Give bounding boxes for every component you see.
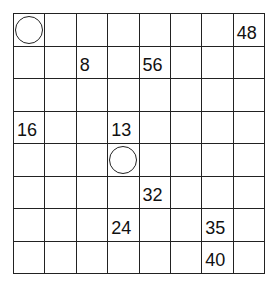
grid-cell-r7-c5[interactable] xyxy=(140,209,171,242)
grid-cell-r2-c8[interactable] xyxy=(234,47,265,80)
grid-cell-r2-c3[interactable]: 8 xyxy=(77,47,108,80)
grid-cell-r6-c5[interactable]: 32 xyxy=(140,177,171,210)
grid-cell-r5-c5[interactable] xyxy=(140,144,171,177)
puzzle-grid: 48856161332243540 xyxy=(13,13,265,274)
grid-cell-r3-c1[interactable] xyxy=(14,79,45,112)
grid-cell-r5-c3[interactable] xyxy=(77,144,108,177)
grid-cell-r7-c8[interactable] xyxy=(234,209,265,242)
grid-cell-r7-c1[interactable] xyxy=(14,209,45,242)
grid-cell-r3-c2[interactable] xyxy=(45,79,76,112)
grid-cell-r6-c2[interactable] xyxy=(45,177,76,210)
clue-number: 56 xyxy=(143,56,163,74)
grid-cell-r3-c3[interactable] xyxy=(77,79,108,112)
grid-cell-r6-c7[interactable] xyxy=(202,177,233,210)
grid-cell-r1-c4[interactable] xyxy=(108,14,139,47)
grid-cell-r3-c4[interactable] xyxy=(108,79,139,112)
grid-cell-r3-c7[interactable] xyxy=(202,79,233,112)
grid-cell-r7-c6[interactable] xyxy=(171,209,202,242)
grid-cell-r8-c3[interactable] xyxy=(77,242,108,275)
clue-number: 32 xyxy=(143,186,163,204)
grid-cell-r8-c1[interactable] xyxy=(14,242,45,275)
grid-cell-r2-c2[interactable] xyxy=(45,47,76,80)
grid-cell-r8-c5[interactable] xyxy=(140,242,171,275)
grid-cell-r4-c8[interactable] xyxy=(234,112,265,145)
grid-cell-r4-c6[interactable] xyxy=(171,112,202,145)
grid-cell-r5-c2[interactable] xyxy=(45,144,76,177)
grid-cell-r1-c6[interactable] xyxy=(171,14,202,47)
grid-cell-r7-c2[interactable] xyxy=(45,209,76,242)
grid-cell-r2-c6[interactable] xyxy=(171,47,202,80)
grid-cell-r6-c3[interactable] xyxy=(77,177,108,210)
grid-cell-r1-c3[interactable] xyxy=(77,14,108,47)
grid-cell-r5-c1[interactable] xyxy=(14,144,45,177)
grid-cell-r3-c6[interactable] xyxy=(171,79,202,112)
grid-cell-r1-c1[interactable] xyxy=(14,14,45,47)
grid-cell-r4-c7[interactable] xyxy=(202,112,233,145)
grid-cell-r8-c2[interactable] xyxy=(45,242,76,275)
grid-cell-r8-c6[interactable] xyxy=(171,242,202,275)
grid-cell-r2-c7[interactable] xyxy=(202,47,233,80)
clue-number: 24 xyxy=(111,219,131,237)
grid-cell-r7-c3[interactable] xyxy=(77,209,108,242)
endpoint-circle-icon xyxy=(15,16,43,44)
grid-cell-r5-c7[interactable] xyxy=(202,144,233,177)
grid-cell-r6-c6[interactable] xyxy=(171,177,202,210)
grid-cell-r8-c4[interactable] xyxy=(108,242,139,275)
grid-cell-r1-c2[interactable] xyxy=(45,14,76,47)
grid-cell-r2-c4[interactable] xyxy=(108,47,139,80)
grid-cell-r3-c8[interactable] xyxy=(234,79,265,112)
clue-number: 40 xyxy=(205,251,225,269)
clue-number: 48 xyxy=(237,24,257,42)
grid-cell-r1-c5[interactable] xyxy=(140,14,171,47)
grid-cell-r7-c7[interactable]: 35 xyxy=(202,209,233,242)
grid-cell-r5-c8[interactable] xyxy=(234,144,265,177)
clue-number: 16 xyxy=(17,121,37,139)
grid-cell-r6-c4[interactable] xyxy=(108,177,139,210)
clue-number: 13 xyxy=(111,121,131,139)
grid-cell-r4-c1[interactable]: 16 xyxy=(14,112,45,145)
grid-cell-r5-c4[interactable] xyxy=(108,144,139,177)
grid-cell-r8-c7[interactable]: 40 xyxy=(202,242,233,275)
grid-cell-r4-c2[interactable] xyxy=(45,112,76,145)
endpoint-circle-icon xyxy=(109,146,137,174)
grid-cell-r6-c8[interactable] xyxy=(234,177,265,210)
grid-cell-r2-c5[interactable]: 56 xyxy=(140,47,171,80)
grid-cell-r3-c5[interactable] xyxy=(140,79,171,112)
grid-cell-r6-c1[interactable] xyxy=(14,177,45,210)
clue-number: 8 xyxy=(80,56,90,74)
grid-cell-r1-c7[interactable] xyxy=(202,14,233,47)
grid-cell-r5-c6[interactable] xyxy=(171,144,202,177)
clue-number: 35 xyxy=(205,219,225,237)
grid-cell-r4-c4[interactable]: 13 xyxy=(108,112,139,145)
grid-cell-r8-c8[interactable] xyxy=(234,242,265,275)
grid-cell-r4-c5[interactable] xyxy=(140,112,171,145)
grid-cell-r7-c4[interactable]: 24 xyxy=(108,209,139,242)
grid-cell-r2-c1[interactable] xyxy=(14,47,45,80)
grid-cell-r1-c8[interactable]: 48 xyxy=(234,14,265,47)
grid-cell-r4-c3[interactable] xyxy=(77,112,108,145)
